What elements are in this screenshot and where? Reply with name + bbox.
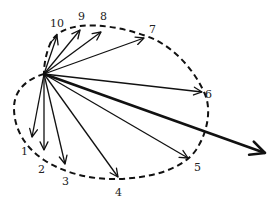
vector-label-8: 8 xyxy=(100,10,107,23)
vector-label-5: 5 xyxy=(194,161,201,174)
vector-1-shaft xyxy=(32,74,44,137)
vector-label-9: 9 xyxy=(78,10,85,23)
vector-6 xyxy=(44,74,202,95)
resultant-vector-shaft xyxy=(44,74,265,153)
vector-5-shaft xyxy=(44,74,188,158)
vector-1 xyxy=(30,74,44,137)
vector-label-3: 3 xyxy=(62,175,69,188)
vector-label-7: 7 xyxy=(149,23,156,36)
vector-3 xyxy=(44,74,67,164)
dashed-locus-curve xyxy=(14,25,208,179)
vector-label-4: 4 xyxy=(115,186,122,199)
vector-5 xyxy=(44,74,188,158)
vector-label-1: 1 xyxy=(21,145,28,158)
vector-diagram: 12345678910 xyxy=(0,0,277,204)
vector-4 xyxy=(44,74,118,177)
vector-label-6: 6 xyxy=(205,88,212,101)
vector-label-2: 2 xyxy=(38,163,45,176)
vector-label-10: 10 xyxy=(50,17,64,30)
vector-4-shaft xyxy=(44,74,118,177)
vector-3-shaft xyxy=(44,74,65,164)
